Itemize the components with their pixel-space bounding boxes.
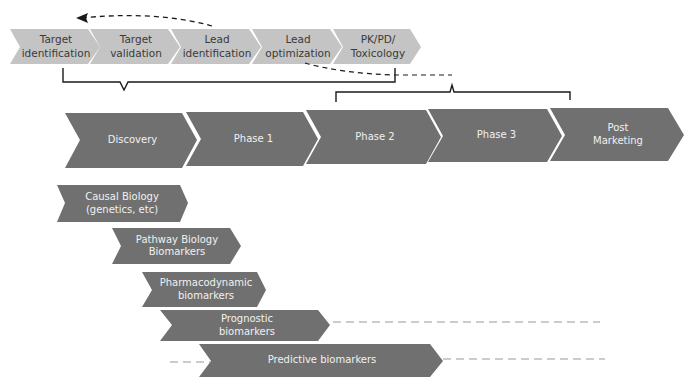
- biomarker-pathway-biology: Pathway Biology Biomarkers: [118, 228, 236, 264]
- stage-target-validation: Target validation: [96, 29, 176, 64]
- feedback-arrow: [82, 16, 212, 26]
- phase-post-marketing: Post Marketing: [560, 108, 676, 161]
- stage-target-identification: Target identification: [14, 29, 98, 64]
- dashed-link: [305, 63, 452, 75]
- biomarker-pharmacodynamic: Pharmacodynamic biomarkers: [150, 272, 262, 307]
- phase-2: Phase 2: [316, 110, 434, 164]
- stage-pkpd-toxicology: PK/PD/ Toxicology: [338, 29, 418, 64]
- bracket-phase2-3: [336, 85, 570, 102]
- biomarker-causal-biology: Causal Biology (genetics, etc): [62, 185, 182, 222]
- biomarker-predictive: Predictive biomarkers: [208, 344, 436, 377]
- stage-lead-optimization: Lead optimization: [257, 29, 339, 64]
- bracket-discovery: [63, 68, 395, 90]
- biomarker-prognostic: Prognostic biomarkers: [170, 310, 324, 341]
- phase-1: Phase 1: [196, 112, 311, 166]
- phase-3: Phase 3: [438, 109, 555, 162]
- phase-discovery: Discovery: [75, 113, 190, 168]
- stage-lead-identification: Lead identification: [176, 29, 258, 64]
